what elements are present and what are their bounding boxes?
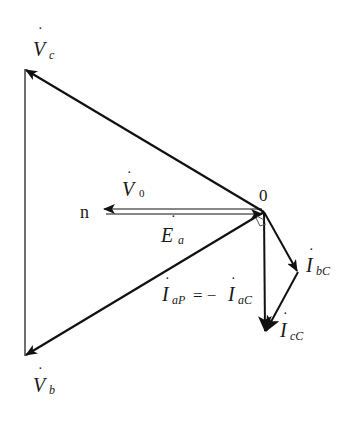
svg-text:E: E bbox=[160, 224, 173, 246]
svg-text:I: I bbox=[227, 283, 236, 305]
svg-text:I: I bbox=[161, 283, 170, 305]
svg-text:I: I bbox=[305, 254, 314, 276]
svg-text:aP: aP bbox=[172, 293, 186, 307]
svg-text:V: V bbox=[122, 178, 137, 200]
svg-text:V: V bbox=[33, 38, 48, 60]
svg-text:bC: bC bbox=[316, 264, 331, 278]
label-v0: · V 0 bbox=[122, 165, 145, 200]
svg-text:a: a bbox=[178, 233, 184, 247]
svg-text:·: · bbox=[171, 209, 176, 224]
label-ibc: · I bC bbox=[305, 242, 331, 278]
vector-vc bbox=[26, 70, 264, 212]
svg-text:aC: aC bbox=[238, 293, 253, 307]
label-iap-equation: · I aP = − · I aC bbox=[161, 271, 253, 307]
svg-text:0: 0 bbox=[139, 187, 145, 199]
label-ea: · E a bbox=[160, 209, 184, 247]
label-n: n bbox=[80, 202, 89, 222]
svg-text:b: b bbox=[49, 383, 55, 397]
svg-text:I: I bbox=[279, 319, 288, 341]
right-angle-mark-2 bbox=[257, 216, 264, 220]
label-vc: · V c bbox=[33, 21, 55, 62]
label-origin: 0 bbox=[259, 186, 268, 205]
svg-text:V: V bbox=[33, 374, 48, 396]
svg-text:c: c bbox=[49, 48, 55, 62]
phasor-diagram: · V c · V b · V 0 n 0 · E a · I bC · I c… bbox=[0, 0, 362, 422]
svg-text:·: · bbox=[38, 21, 43, 36]
label-vb: · V b bbox=[33, 361, 55, 397]
vector-ibc bbox=[264, 212, 297, 271]
svg-text:cC: cC bbox=[290, 329, 304, 343]
vector-iap bbox=[264, 212, 265, 331]
label-icc: · I cC bbox=[279, 306, 304, 343]
svg-text:= −: = − bbox=[193, 286, 216, 305]
